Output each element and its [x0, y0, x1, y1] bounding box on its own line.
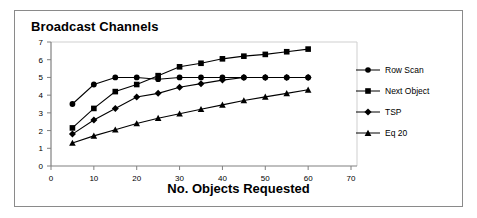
y-axis-tick-label: 2	[39, 127, 44, 136]
chart-series-tsp	[69, 74, 312, 138]
legend-item-tsp[interactable]: TSP	[355, 101, 460, 122]
marker-square	[70, 125, 76, 131]
marker-diamond	[198, 80, 205, 87]
marker-circle	[177, 75, 183, 81]
marker-triangle	[305, 87, 312, 93]
marker-diamond	[240, 74, 247, 81]
chart-series-eq-20	[69, 87, 311, 146]
marker-circle	[134, 75, 140, 81]
marker-square	[284, 49, 290, 55]
marker-diamond	[262, 74, 269, 81]
marker-diamond	[133, 93, 140, 100]
marker-circle	[70, 101, 76, 107]
legend-label: TSP	[385, 107, 402, 117]
y-axis-tick-label: 0	[39, 162, 44, 171]
marker-diamond	[112, 105, 119, 112]
series-line	[72, 49, 308, 128]
series-line	[72, 77, 308, 104]
marker-square	[112, 89, 118, 95]
legend-marker-diamond-icon	[355, 106, 381, 118]
y-axis-tick-label: 5	[39, 73, 44, 82]
marker-square	[155, 73, 161, 79]
chart-series-row-scan	[70, 75, 312, 107]
x-axis-title: No. Objects Requested	[15, 181, 462, 196]
marker-diamond	[305, 74, 312, 81]
marker-circle	[91, 82, 97, 88]
marker-diamond	[69, 131, 76, 138]
marker-square	[91, 106, 97, 112]
series-layer	[69, 46, 312, 145]
marker-diamond	[90, 116, 97, 123]
marker-square	[262, 52, 268, 58]
marker-diamond	[155, 90, 162, 97]
legend-item-next-object[interactable]: Next Object	[355, 80, 460, 101]
legend-marker-triangle-icon	[355, 127, 381, 139]
series-line	[72, 77, 308, 134]
marker-square	[220, 56, 226, 62]
marker-square	[241, 53, 247, 59]
legend-item-row-scan[interactable]: Row Scan	[355, 59, 460, 80]
marker-square	[177, 64, 183, 70]
marker-square	[198, 60, 204, 66]
legend-marker-square-icon	[355, 85, 381, 97]
chart-legend: Row Scan Next Object TSP Eq 20	[355, 59, 460, 143]
y-axis-tick-label: 3	[39, 109, 44, 118]
marker-square	[134, 82, 140, 88]
marker-diamond	[176, 84, 183, 91]
legend-label: Next Object	[385, 86, 429, 96]
y-axis-tick-label: 4	[39, 91, 44, 100]
marker-circle	[198, 75, 204, 81]
marker-circle	[112, 75, 118, 81]
legend-marker-circle-icon	[355, 64, 381, 76]
chart-series-next-object	[70, 46, 311, 130]
legend-label: Eq 20	[385, 128, 407, 138]
legend-item-eq-20[interactable]: Eq 20	[355, 122, 460, 143]
marker-diamond	[283, 74, 290, 81]
y-axis-tick-label: 6	[39, 56, 44, 65]
y-axis-tick-label: 1	[39, 144, 44, 153]
legend-label: Row Scan	[385, 65, 424, 75]
chart-figure-frame: Broadcast Channels 012345670102030405060…	[14, 10, 463, 207]
y-axis-tick-label: 7	[39, 38, 44, 47]
marker-square	[305, 46, 311, 52]
